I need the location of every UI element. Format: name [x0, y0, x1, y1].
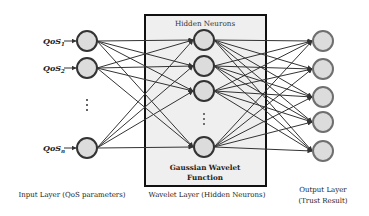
output-node-5 [313, 141, 333, 161]
trust-result-label: (Trust Result) [298, 197, 347, 205]
gaussian-wavelet-label: Gaussian Wavelet [170, 163, 241, 172]
input-node-n [77, 138, 97, 158]
input-node-2 [77, 58, 97, 78]
input-label-qos2: QoS2 [43, 63, 65, 74]
output-node-2 [313, 59, 333, 79]
input-label-qos1: QoS1 [43, 36, 65, 47]
input-node-1 [77, 31, 97, 51]
hidden-node-n [194, 137, 214, 157]
hidden-node-1 [194, 30, 214, 50]
input-ellipsis-icon [86, 99, 88, 111]
wavelet-neural-network-diagram: Hidden Neurons Gaussian Wavelet Function [0, 0, 369, 216]
hidden-node-3 [194, 81, 214, 101]
output-node-4 [313, 112, 333, 132]
function-label: Function [187, 173, 224, 182]
hidden-neurons-title: Hidden Neurons [175, 19, 235, 28]
output-layer-label: Output Layer [299, 186, 347, 194]
input-layer-label: Input Layer (QoS parameters) [18, 191, 125, 199]
wavelet-layer-label: Wavelet Layer (Hidden Neurons) [149, 191, 266, 199]
output-node-1 [313, 31, 333, 51]
input-label-qosn: QoSn [43, 143, 65, 154]
hidden-node-2 [194, 56, 214, 76]
output-node-3 [313, 87, 333, 107]
